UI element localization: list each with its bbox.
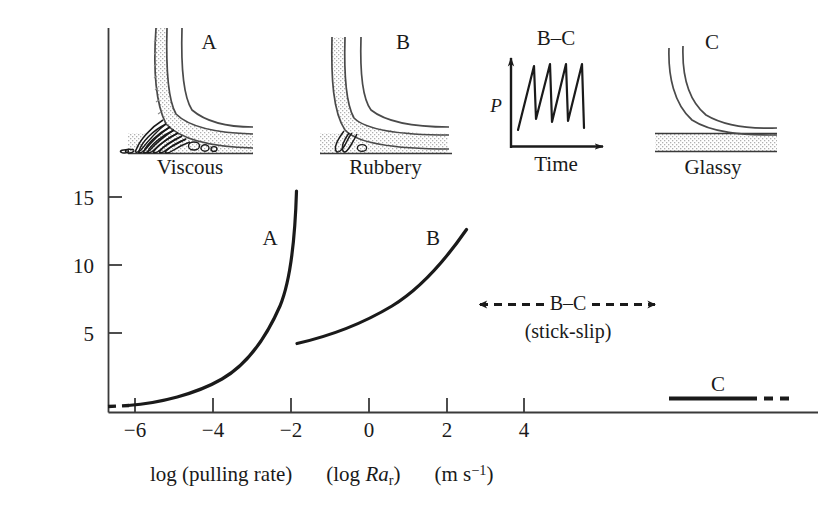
stick-slip-inset-y-axis-label: P (486, 95, 506, 117)
inset-letter-a: A (194, 30, 224, 55)
stick-slip-region-label: B–C (538, 292, 598, 315)
inset-letter-b: B (388, 30, 418, 55)
x-tick-label-4: 4 (501, 418, 547, 443)
inset-stick-slip (511, 58, 603, 148)
curve-a (108, 191, 297, 407)
peel-force-figure: Peel force Pr (N) 15 10 5 −6 −4 −2 0 2 4… (0, 0, 825, 514)
stick-slip-sawtooth-trace (518, 64, 584, 130)
glassy-substrate-fill (655, 134, 777, 151)
x-tick-label-0: 0 (346, 418, 392, 443)
x-axis-label-ra-close: ) (393, 462, 400, 486)
x-axis-label-ra-symbol: Ra (365, 462, 388, 486)
inset-caption-viscous: Viscous (130, 155, 250, 180)
curve-a-path (128, 191, 297, 406)
glassy-tape-outer-edge (683, 46, 777, 128)
curve-a-dashed-tail (108, 406, 129, 407)
x-axis-label-unit-open: (m s (434, 462, 471, 486)
inset-glassy (655, 46, 777, 152)
y-tick-label-10: 10 (48, 254, 94, 279)
x-tick-label-2: 2 (424, 418, 470, 443)
inset-viscous (120, 28, 253, 154)
x-tick-label-neg4: −4 (190, 418, 236, 443)
axis-lines (109, 28, 819, 413)
y-tick-label-5: 5 (48, 322, 94, 347)
x-tick-label-neg6: −6 (112, 418, 158, 443)
inset-rubbery (320, 37, 452, 154)
x-axis-label: log (pulling rate)(log Rar)(m s−1) (150, 462, 770, 489)
x-axis-label-ra-open: (log (326, 462, 365, 486)
y-axis-ticks (109, 197, 123, 333)
x-axis-label-main: log (pulling rate) (150, 462, 292, 486)
inset-letter-c: C (697, 30, 727, 55)
x-tick-label-neg2: −2 (268, 418, 314, 443)
inset-caption-time: Time (516, 152, 596, 177)
curve-label-c: C (703, 372, 733, 397)
stick-slip-region-sublabel: (stick-slip) (488, 320, 648, 343)
inset-caption-glassy: Glassy (658, 155, 768, 180)
x-axis-label-unit-exponent: −1 (471, 462, 486, 478)
inset-caption-rubbery: Rubbery (323, 155, 448, 180)
x-axis-label-unit-close: ) (486, 462, 493, 486)
curve-label-b: B (418, 226, 448, 251)
curve-label-a: A (255, 226, 285, 251)
x-axis-ticks (135, 398, 524, 413)
inset-letter-bc: B–C (521, 26, 591, 51)
y-tick-label-15: 15 (48, 186, 94, 211)
